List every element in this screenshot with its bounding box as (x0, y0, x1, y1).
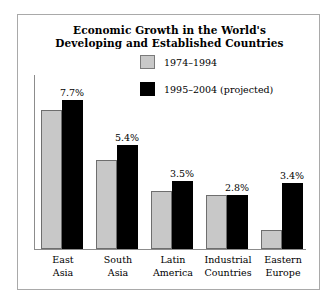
y-axis-line (34, 75, 35, 250)
category-label-industrial-countries-line-1: Industrial (197, 253, 259, 266)
category-label-eastern-europe-line-2: Europe (252, 266, 314, 279)
category-label-south-asia-line-2: Asia (87, 266, 149, 279)
bar-east-asia-1995-2004 (62, 100, 83, 249)
category-label-east-asia: East Asia (32, 253, 94, 279)
bar-group-latin-america: 3.5% (146, 75, 200, 249)
plot-area: 7.7% 5.4% 3.5% 2.8% 3.4% (34, 75, 306, 250)
x-axis-line (34, 249, 306, 250)
category-label-eastern-europe-line-1: Eastern (252, 253, 314, 266)
bar-group-east-asia: 7.7% (36, 75, 90, 249)
bar-eastern-europe-1995-2004 (282, 183, 303, 249)
bar-latin-america-1974-1994 (151, 191, 172, 249)
bar-industrial-countries-1974-1994 (206, 195, 227, 249)
bar-industrial-countries-1995-2004 (227, 195, 248, 249)
category-label-industrial-countries: Industrial Countries (197, 253, 259, 279)
chart-title-line-2: Developing and Established Countries (18, 37, 321, 50)
bar-east-asia-1974-1994 (41, 110, 62, 249)
bar-group-industrial-countries: 2.8% (201, 75, 255, 249)
category-label-eastern-europe: Eastern Europe (252, 253, 314, 279)
category-label-latin-america-line-2: America (142, 266, 204, 279)
chart-figure: Economic Growth in the World's Developin… (17, 14, 320, 290)
bar-south-asia-1995-2004 (117, 145, 138, 249)
category-label-east-asia-line-1: East (32, 253, 94, 266)
bar-latin-america-1995-2004 (172, 181, 193, 249)
legend-label-1974-1994: 1974–1994 (164, 57, 217, 68)
category-label-latin-america: Latin America (142, 253, 204, 279)
bar-value-eastern-europe: 3.4% (264, 170, 320, 181)
legend-item-1974-1994: 1974–1994 (140, 54, 320, 70)
x-axis-category-labels: East Asia South Asia Latin America Indus… (34, 253, 306, 285)
category-label-east-asia-line-2: Asia (32, 266, 94, 279)
category-label-south-asia: South Asia (87, 253, 149, 279)
bar-group-eastern-europe: 3.4% (256, 75, 310, 249)
legend-swatch-gray-icon (140, 55, 155, 69)
bar-eastern-europe-1974-1994 (261, 230, 282, 249)
category-label-south-asia-line-1: South (87, 253, 149, 266)
category-label-latin-america-line-1: Latin (142, 253, 204, 266)
bar-south-asia-1974-1994 (96, 160, 117, 249)
bar-group-south-asia: 5.4% (91, 75, 145, 249)
category-label-industrial-countries-line-2: Countries (197, 266, 259, 279)
chart-title: Economic Growth in the World's Developin… (18, 24, 321, 50)
chart-title-line-1: Economic Growth in the World's (18, 24, 321, 37)
